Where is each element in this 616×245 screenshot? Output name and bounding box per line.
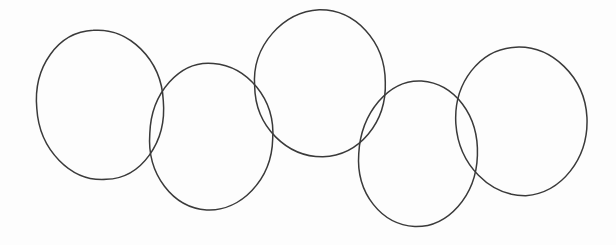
circle-2 bbox=[146, 60, 277, 213]
circle-4 bbox=[356, 79, 480, 229]
overlapping-circles-figure bbox=[0, 0, 616, 245]
circle-chain-group bbox=[32, 8, 591, 229]
circle-1 bbox=[32, 26, 169, 184]
drawing-canvas bbox=[0, 0, 616, 245]
